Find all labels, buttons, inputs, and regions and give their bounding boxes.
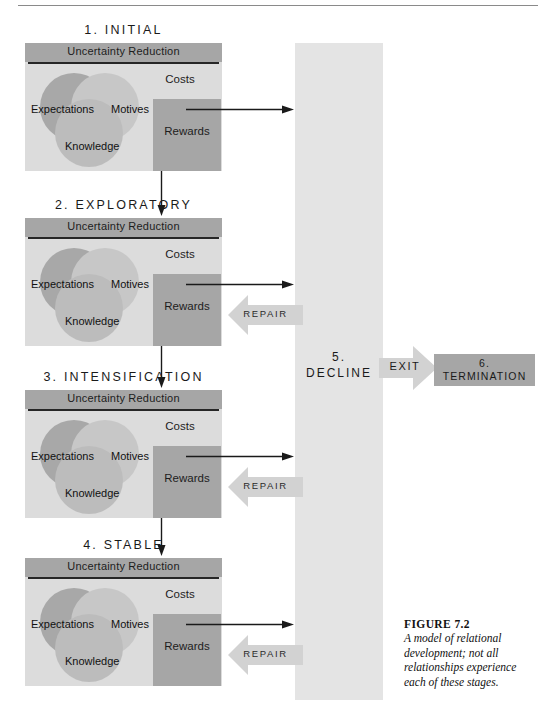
venn-label-knowledge: Knowledge <box>65 487 119 499</box>
venn-diagram-icon <box>29 582 149 682</box>
costs-label: Costs <box>150 420 210 432</box>
band-divider <box>28 577 219 579</box>
venn-label-expectations: Expectations <box>31 450 94 462</box>
decline-label: 5. DECLINE <box>295 349 383 381</box>
repair-arrow: REPAIR <box>228 633 303 677</box>
uncertainty-reduction-label: Uncertainty Reduction <box>25 220 222 232</box>
costs-label: Costs <box>150 73 210 85</box>
repair-label: REPAIR <box>228 480 303 491</box>
repair-arrow: REPAIR <box>228 465 303 509</box>
stage-transition-arrow-icon <box>157 346 166 388</box>
venn-label-knowledge: Knowledge <box>65 315 119 327</box>
page-top-rule <box>18 5 538 6</box>
stage-title-intensification: 3. INTENSIFICATION <box>25 370 222 384</box>
venn-label-expectations: Expectations <box>31 278 94 290</box>
termination-name: TERMINATION <box>443 370 527 382</box>
costs-label: Costs <box>150 588 210 600</box>
uncertainty-reduction-label: Uncertainty Reduction <box>25 45 222 57</box>
figure-caption: FIGURE 7.2 A model of relational develop… <box>404 618 536 689</box>
decline-name: DECLINE <box>306 366 372 380</box>
venn-label-motives: Motives <box>111 450 149 462</box>
termination-number: 6. <box>479 357 490 369</box>
costs-arrow-icon <box>186 105 294 114</box>
costs-arrow-icon <box>186 280 294 289</box>
repair-label: REPAIR <box>228 648 303 659</box>
exit-label: EXIT <box>381 360 429 372</box>
venn-label-motives: Motives <box>111 278 149 290</box>
venn-label-knowledge: Knowledge <box>65 140 119 152</box>
stage-transition-arrow-icon <box>157 518 166 556</box>
repair-arrow: REPAIR <box>228 293 303 337</box>
rewards-label: Rewards <box>153 472 221 484</box>
venn-label-motives: Motives <box>111 103 149 115</box>
rewards-label: Rewards <box>153 640 221 652</box>
uncertainty-reduction-label: Uncertainty Reduction <box>25 560 222 572</box>
stage-title-initial: 1. INITIAL <box>25 23 222 37</box>
costs-label: Costs <box>150 248 210 260</box>
costs-arrow-icon <box>186 452 294 461</box>
repair-label: REPAIR <box>228 308 303 319</box>
costs-arrow-icon <box>186 620 294 629</box>
venn-diagram-icon <box>29 67 149 167</box>
stage-title-stable: 4. STABLE <box>25 538 222 552</box>
stage-title-exploratory: 2. EXPLORATORY <box>25 198 222 212</box>
rewards-label: Rewards <box>153 125 221 137</box>
band-divider <box>28 62 219 64</box>
venn-diagram-icon <box>29 242 149 342</box>
band-divider <box>28 237 219 239</box>
venn-label-motives: Motives <box>111 618 149 630</box>
decline-number: 5. <box>332 350 346 364</box>
band-divider <box>28 409 219 411</box>
venn-label-expectations: Expectations <box>31 103 94 115</box>
rewards-label: Rewards <box>153 300 221 312</box>
venn-diagram-icon <box>29 414 149 514</box>
stage-transition-arrow-icon <box>157 171 166 216</box>
venn-label-knowledge: Knowledge <box>65 655 119 667</box>
termination-label: 6. TERMINATION <box>434 357 535 383</box>
uncertainty-reduction-label: Uncertainty Reduction <box>25 392 222 404</box>
figure-caption-text: A model of relational development; not a… <box>404 631 536 689</box>
venn-label-expectations: Expectations <box>31 618 94 630</box>
figure-caption-title: FIGURE 7.2 <box>404 618 536 630</box>
